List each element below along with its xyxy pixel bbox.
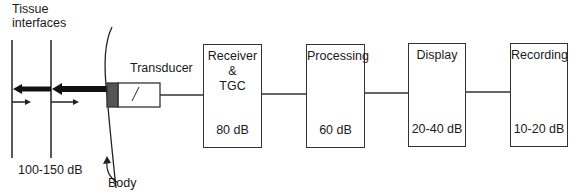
block-title: Recording [511,48,567,63]
tissue-label-line1: Tissue [12,2,66,16]
receiver-tgc-block: Receiver & TGC 80 dB [203,44,262,148]
tissue-range-label: 100-150 dB [18,163,83,177]
diagram-lines [0,0,583,196]
tissue-label-line2: interfaces [12,16,66,30]
recording-block: Recording 10-20 dB [510,43,568,147]
processing-block: Processing 60 dB [306,44,365,148]
block-title: Receiver & TGC [204,49,261,94]
display-block: Display 20-40 dB [408,43,466,147]
transducer-face [107,83,118,107]
block-range: 80 dB [204,123,261,137]
block-range: 60 dB [307,123,364,137]
block-range: 10-20 dB [511,122,567,136]
block-title-line: TGC [204,79,261,94]
transducer-body [118,83,160,107]
tissue-interfaces-label: Tissue interfaces [12,2,66,30]
block-title: Display [409,48,465,63]
block-range: 20-40 dB [409,122,465,136]
echo-arrowhead-1 [13,84,22,94]
transducer-label: Transducer [130,61,193,75]
block-title-line: Receiver [204,49,261,64]
block-title: Processing [307,49,364,64]
body-label: Body [108,176,137,190]
echo-arrowhead-2 [52,83,62,95]
block-title-line: & [204,64,261,79]
